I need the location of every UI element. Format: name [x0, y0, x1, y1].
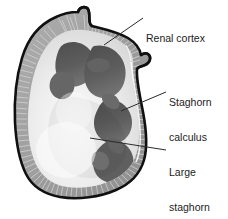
label-large-staghorn-line-1: Large — [169, 167, 219, 179]
label-renal-cortex-line-1: Renal cortex — [146, 33, 205, 45]
kidney-figure: Renal cortex Staghorn calculus Large sta… — [0, 0, 228, 219]
label-large-staghorn-line-2: staghorn — [169, 202, 219, 214]
label-staghorn-calculus-line-1: Staghorn — [169, 97, 212, 109]
label-large-staghorn-calculus: Large staghorn calculus resembles deer a… — [169, 144, 219, 219]
label-staghorn-calculus-line-2: calculus — [169, 132, 212, 144]
label-renal-cortex: Renal cortex — [146, 10, 205, 68]
